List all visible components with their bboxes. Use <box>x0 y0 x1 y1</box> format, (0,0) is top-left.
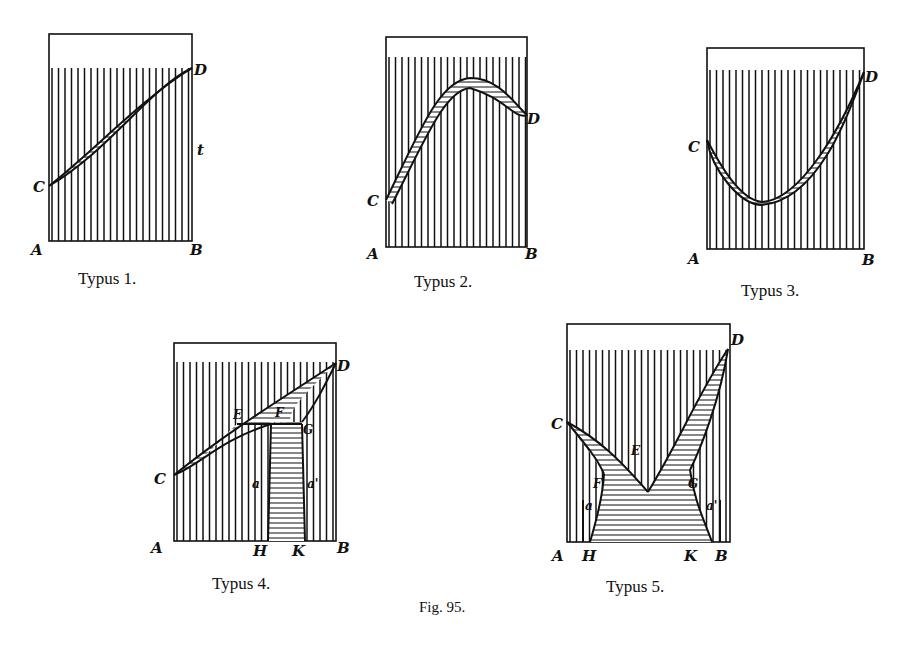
region-label-a: a <box>585 499 593 513</box>
point-label-a: A <box>550 547 564 565</box>
vertical-hatching <box>52 68 189 241</box>
panel-typus-5: C D E F G a a' A H K B Typus 5. <box>550 324 744 596</box>
point-label-d: D <box>193 61 207 79</box>
frame <box>49 34 192 241</box>
region-label-a-prime: a' <box>307 477 318 491</box>
point-label-b: B <box>861 251 875 269</box>
lens-region <box>700 68 870 210</box>
point-label-a: A <box>365 245 379 263</box>
panel-caption: Typus 5. <box>606 577 664 596</box>
point-label-b: B <box>336 539 350 557</box>
point-label-t: t <box>197 141 204 159</box>
panel-caption: Typus 4. <box>212 574 270 593</box>
point-label-f: F <box>274 406 285 420</box>
point-label-b: B <box>524 245 538 263</box>
point-label-c: C <box>688 138 700 156</box>
point-label-d: D <box>336 357 350 375</box>
panel-caption: Typus 1. <box>78 269 136 288</box>
panel-typus-2: C D A B Typus 2. <box>365 37 540 291</box>
point-label-a: A <box>686 250 700 268</box>
panel-caption: Typus 3. <box>741 281 799 300</box>
panel-typus-3: C D A B Typus 3. <box>686 48 878 300</box>
point-label-f: F <box>592 477 603 491</box>
point-label-c: C <box>154 470 166 488</box>
figure-title: Fig. 95. <box>419 599 465 615</box>
region-label-a-prime: a' <box>706 499 717 513</box>
point-label-c: C <box>33 178 45 196</box>
point-label-d: D <box>730 331 744 349</box>
phase-diagram-figure: C D t A B Typus 1. C D A B Typus 2. C D <box>0 0 904 648</box>
panel-typus-1: C D t A B Typus 1. <box>29 34 207 288</box>
point-label-a: A <box>149 539 163 557</box>
point-label-e: E <box>630 444 641 458</box>
vertical-hatching <box>710 70 860 249</box>
point-label-c: C <box>367 192 379 210</box>
point-label-k: K <box>683 547 698 565</box>
point-label-g: G <box>303 423 313 437</box>
region-label-a: a <box>252 477 260 491</box>
point-label-b: B <box>189 241 203 259</box>
point-label-c: C <box>551 415 563 433</box>
point-label-d: D <box>526 110 540 128</box>
panel-caption: Typus 2. <box>414 272 472 291</box>
point-label-h: H <box>252 542 268 560</box>
point-label-k: K <box>291 542 306 560</box>
point-label-d: D <box>864 68 878 86</box>
point-label-e: E <box>232 408 243 422</box>
point-label-a: A <box>29 241 43 259</box>
point-label-g: G <box>688 477 698 491</box>
point-label-b: B <box>714 547 728 565</box>
panel-typus-4: C D E F G a a' A H K B Typus 4. <box>149 343 350 593</box>
point-label-h: H <box>581 547 597 565</box>
